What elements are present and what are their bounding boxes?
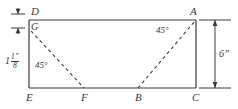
dimension-label-right: 6”: [219, 49, 230, 59]
vertex-label-G: G: [31, 22, 38, 32]
vertex-label-F: F: [81, 92, 88, 103]
right-arrowhead-down: [213, 82, 218, 88]
right-arrowhead-up: [213, 20, 218, 26]
vertex-label-A: A: [190, 6, 197, 17]
fraction-denominator: 8: [13, 62, 18, 70]
vertex-label-C: C: [192, 92, 199, 103]
left-arrowhead-down: [16, 28, 21, 33]
vertex-label-B: B: [135, 92, 142, 103]
left-dimension-marks: [11, 8, 25, 34]
vertex-label-E: E: [26, 92, 33, 103]
fraction-part: 1” 8: [11, 53, 20, 69]
angle-label-right-45: 45°: [156, 26, 169, 35]
dashed-diagonals: [31, 21, 195, 88]
vertex-label-D: D: [31, 6, 39, 17]
angle-label-left-45: 45°: [35, 61, 48, 70]
left-arrowhead-up: [16, 9, 21, 14]
dimension-label-left: 1 1” 8: [5, 53, 19, 69]
rectangle-outline: [29, 20, 196, 88]
geometry-figure: D A G E F B C 45° 45° 1 1” 8 6”: [0, 0, 238, 109]
